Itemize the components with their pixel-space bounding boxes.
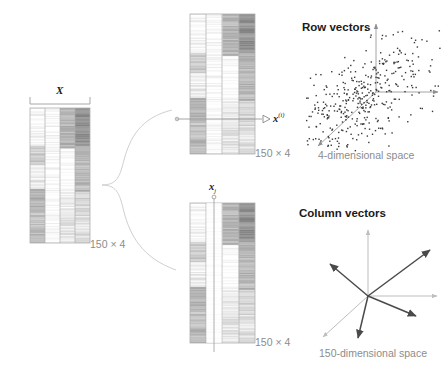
matrix-main-dim: 150 × 4 <box>90 239 125 250</box>
row-vectors-plot <box>306 24 441 151</box>
matrix-main <box>30 97 90 243</box>
matrix-cols-view-dim: 150 × 4 <box>255 337 290 348</box>
matrix-main-bracket <box>30 97 90 104</box>
column-vector-arrow <box>368 296 416 316</box>
column-vectors-title: Column vectors <box>299 208 386 220</box>
matrix-rows-view <box>175 14 270 154</box>
matrix-main-label: X <box>56 85 63 96</box>
row-vectors-title: Row vectors <box>302 22 370 34</box>
matrix-cols-view <box>190 195 255 352</box>
row-vector-superscript: (i) <box>278 111 284 118</box>
matrix-rows-view-dim: 150 × 4 <box>255 148 290 159</box>
diagram-svg <box>0 0 445 385</box>
column-vector-arrow <box>358 296 368 338</box>
column-vector-arrow <box>368 250 430 296</box>
column-vector-label: xj <box>209 182 216 195</box>
column-vector-arrow <box>330 264 368 296</box>
row-vector-label: x(i) <box>273 112 284 124</box>
column-vectors-space-label: 150-dimensional space <box>319 348 427 359</box>
row-vectors-space-label: 4-dimensional space <box>318 150 414 161</box>
figure-canvas: X 150 × 4 150 × 4 150 × 4 x(i) xj Row ve… <box>0 0 445 385</box>
column-vector-subscript: j <box>214 187 216 194</box>
column-vectors-plot <box>323 230 437 338</box>
